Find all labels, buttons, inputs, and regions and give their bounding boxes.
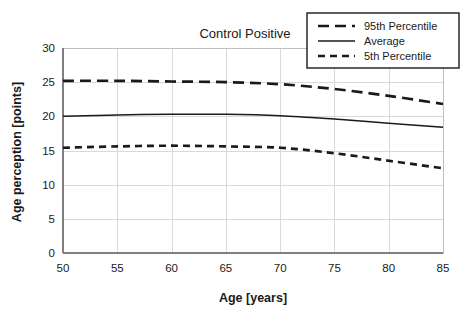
legend-label-average: Average xyxy=(364,35,405,47)
x-tick-label-55: 55 xyxy=(111,262,124,274)
y-tick-label-5: 5 xyxy=(49,213,55,225)
x-tick-label-65: 65 xyxy=(219,262,232,274)
x-tick-label-60: 60 xyxy=(165,262,178,274)
chart-title: Control Positive xyxy=(199,26,290,41)
y-tick-label-15: 15 xyxy=(42,145,55,157)
y-tick-label-20: 20 xyxy=(42,110,55,122)
x-tick-label-75: 75 xyxy=(328,262,341,274)
x-axis-title: Age [years] xyxy=(219,291,287,305)
y-axis-title: Age perception [points] xyxy=(10,82,24,222)
y-tick-label-10: 10 xyxy=(42,179,55,191)
x-tick-label-50: 50 xyxy=(57,262,70,274)
y-tick-label-0: 0 xyxy=(49,247,55,259)
control-positive-line-chart: 051015202530 5055606570758085 Control Po… xyxy=(0,0,465,314)
y-tick-label-25: 25 xyxy=(42,76,55,88)
x-tick-label-85: 85 xyxy=(437,262,450,274)
y-tick-label-30: 30 xyxy=(42,42,55,54)
legend-label-95th-percentile: 95th Percentile xyxy=(364,20,437,32)
x-tick-label-70: 70 xyxy=(274,262,287,274)
legend-label-5th-percentile: 5th Percentile xyxy=(364,50,431,62)
chart-legend: 95th PercentileAverage5th Percentile xyxy=(307,13,459,68)
chart-container: 051015202530 5055606570758085 Control Po… xyxy=(0,0,465,314)
x-tick-label-80: 80 xyxy=(382,262,395,274)
